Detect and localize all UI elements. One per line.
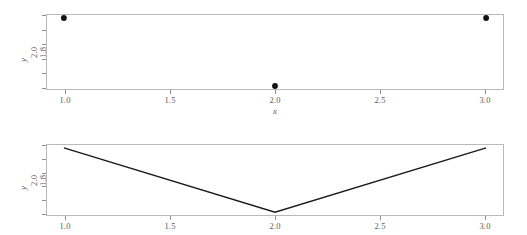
x-tick-label: 2.5 xyxy=(374,95,385,105)
x-tick-label: 2.0 xyxy=(269,95,280,105)
x-tick-label: 3.0 xyxy=(479,95,490,105)
x-tick-mark xyxy=(170,216,171,220)
data-point xyxy=(61,15,67,21)
line-svg xyxy=(47,145,503,215)
data-line xyxy=(64,148,486,212)
x-tick-mark xyxy=(485,216,486,220)
scatter-svg xyxy=(47,15,503,89)
x-tick-mark xyxy=(65,90,66,94)
figure-container: y 1.0 1.2 1.4 1.6 1.8 2.0 1.0 1.5 2.0 xyxy=(0,0,527,235)
x-axis-title-bottom: x xyxy=(273,232,277,235)
line-plot-area xyxy=(47,145,503,215)
y-axis-title-bottom: y xyxy=(18,186,28,190)
x-axis-title-top: x xyxy=(273,106,277,116)
scatter-panel: y 1.0 1.2 1.4 1.6 1.8 2.0 1.0 1.5 2.0 xyxy=(0,0,527,120)
data-point xyxy=(272,83,278,89)
x-tick-label: 1.5 xyxy=(164,221,175,231)
scatter-plot-frame xyxy=(46,14,504,90)
x-tick-mark xyxy=(485,90,486,94)
x-tick-label: 1.5 xyxy=(164,95,175,105)
x-tick-label: 3.0 xyxy=(479,221,490,231)
x-tick-mark xyxy=(275,90,276,94)
y-axis-title-top: y xyxy=(18,58,28,62)
line-plot-frame xyxy=(46,144,504,216)
x-tick-mark xyxy=(275,216,276,220)
x-tick-mark xyxy=(170,90,171,94)
x-tick-mark xyxy=(380,90,381,94)
x-tick-label: 2.5 xyxy=(374,221,385,231)
data-point xyxy=(483,15,489,21)
line-panel: y 1.0 1.2 1.4 1.6 1.8 2.0 1.0 1.5 2.0 2.… xyxy=(0,120,527,235)
x-tick-label: 2.0 xyxy=(269,221,280,231)
scatter-plot-area xyxy=(47,15,503,89)
x-tick-label: 1.0 xyxy=(59,95,70,105)
x-tick-mark xyxy=(65,216,66,220)
x-tick-label: 1.0 xyxy=(59,221,70,231)
x-tick-mark xyxy=(380,216,381,220)
